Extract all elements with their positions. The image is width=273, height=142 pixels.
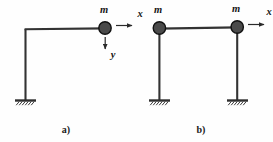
structural-diagram-figure: m x y a): [0, 0, 273, 142]
panel-a-mass-label: m: [100, 4, 108, 15]
figure-canvas: m x y a): [0, 0, 273, 142]
panel-b-mass-node-left: [153, 22, 165, 34]
panel-b-support-left-hatching: [150, 102, 168, 106]
panel-b-axis-x-label: x: [265, 6, 271, 17]
panel-b-support-right-hatching: [228, 102, 246, 106]
panel-b-caption: b): [197, 124, 206, 136]
panel-a-caption: a): [62, 124, 70, 136]
panel-b-mass-label-left: m: [154, 4, 162, 15]
panel-a-mass-node: [99, 22, 111, 34]
panel-b-mass-label-right: m: [232, 3, 240, 14]
panel-a-axis-y-label: y: [109, 49, 116, 60]
panel-b-group: m m x b): [149, 3, 272, 136]
panel-a-axis-x-label: x: [136, 8, 142, 19]
panel-a-group: m x y a): [15, 4, 143, 136]
panel-a-beam: [25, 28, 105, 29]
panel-b-mass-node-right: [231, 21, 243, 33]
panel-b-beam: [159, 27, 238, 28]
panel-a-support-hatching: [16, 102, 34, 106]
